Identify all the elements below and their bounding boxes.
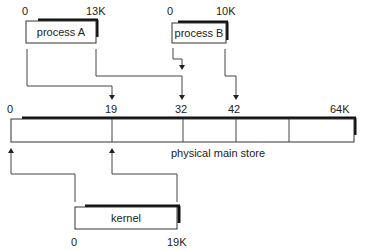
- store-tick-0: 0: [7, 103, 13, 115]
- process-a-end-label: 13K: [86, 5, 106, 17]
- store-tick-32: 32: [175, 103, 187, 115]
- process-b-segment: 0 10K process B: [167, 5, 236, 43]
- memory-mapping-diagram: 0 13K process A 0 10K process B 0 19 32 …: [0, 0, 366, 251]
- process-b-end-label: 10K: [216, 5, 236, 17]
- process-a-segment: 0 13K process A: [22, 5, 106, 43]
- process-b-start-label: 0: [167, 5, 173, 17]
- mapping-arrows-top: [27, 48, 239, 100]
- store-tick-19: 19: [105, 103, 117, 115]
- store-tick-42: 42: [228, 103, 240, 115]
- store-label: physical main store: [171, 147, 265, 159]
- diagram-canvas: 0 13K process A 0 10K process B 0 19 32 …: [0, 0, 366, 251]
- kernel-end-label: 19K: [167, 236, 187, 248]
- mapping-arrows-bottom: [8, 148, 177, 202]
- process-b-label: process B: [175, 27, 224, 39]
- kernel-segment: kernel 0 19K: [71, 206, 187, 248]
- process-a-start-label: 0: [22, 5, 28, 17]
- kernel-start-label: 0: [71, 236, 77, 248]
- process-a-label: process A: [37, 26, 86, 38]
- store-tick-64k: 64K: [330, 103, 350, 115]
- physical-main-store: 0 19 32 42 64K physical main store: [7, 103, 356, 159]
- kernel-label: kernel: [111, 212, 141, 224]
